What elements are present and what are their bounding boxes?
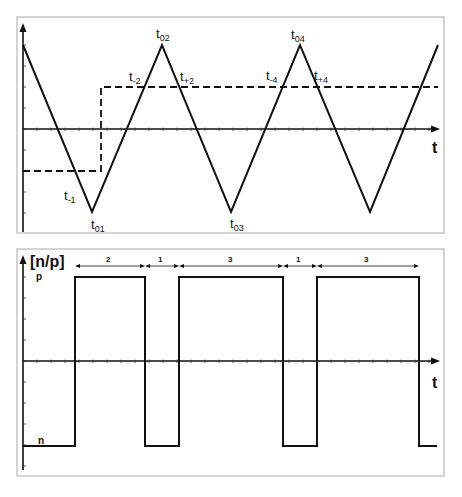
duration-label: 1 xyxy=(158,255,163,264)
bottom-x-axis-label: t xyxy=(432,374,438,391)
figure: t t-1 t01 t02 t-2 t+2 t03 t04 t-4 t+4 t … xyxy=(0,0,462,497)
duration-label: 3 xyxy=(364,255,369,264)
bottom-y-axis-label: [n/p] xyxy=(30,253,65,270)
level-n-label: n xyxy=(38,435,44,446)
top-x-axis-label: t xyxy=(432,139,438,156)
duration-label: 2 xyxy=(106,255,111,264)
level-p-label: p xyxy=(36,271,42,282)
bottom-panel-frame xyxy=(17,249,444,476)
duration-label: 1 xyxy=(296,255,301,264)
top-panel-frame xyxy=(17,17,444,233)
duration-label: 3 xyxy=(228,255,233,264)
